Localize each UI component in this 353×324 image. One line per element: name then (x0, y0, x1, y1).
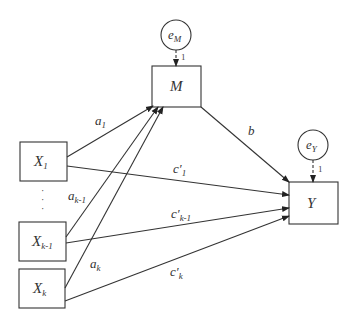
path-b-label: b (248, 124, 255, 137)
node-Xk-label: Xk (33, 281, 46, 298)
error-eY-loading: 1 (318, 164, 323, 174)
path-a1-label: a1 (95, 114, 106, 130)
error-eY-label: eY (306, 138, 317, 154)
error-eM-label: eM (168, 28, 181, 44)
path-ck-label: c′k (170, 265, 183, 281)
path-c1-label: c′1 (173, 162, 186, 178)
node-Y-label: Y (307, 196, 315, 211)
node-Xk1-label: Xk-1 (32, 234, 53, 251)
node-X1-label: X1 (34, 154, 48, 171)
path-ak1-label: ak-1 (68, 189, 86, 205)
node-M-label: M (170, 79, 183, 94)
ellipsis-dots: · · · (41, 186, 44, 213)
path-b (201, 107, 289, 182)
path-ck1-label: c′k-1 (171, 207, 191, 223)
path-ak-label: ak (90, 257, 101, 273)
error-eM-loading: 1 (181, 52, 186, 62)
